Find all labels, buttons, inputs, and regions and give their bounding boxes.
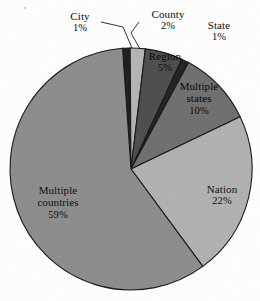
slice-label-city-percent: 1% (58, 22, 102, 34)
slice-label-multiple-countries: Multiple countries 59% (20, 184, 96, 220)
slice-label-county-percent: 2% (141, 20, 195, 32)
slice-label-multiple-countries-name: Multiple countries (20, 184, 96, 209)
pie-chart: City 1% County 2% State 1% Region 5% Mul… (0, 0, 260, 301)
slice-label-city-name: City (58, 10, 102, 22)
pie-chart-canvas (0, 0, 260, 301)
slice-label-region-name: Region (143, 50, 187, 62)
slice-label-county: County 2% (141, 8, 195, 32)
slice-label-state: State 1% (196, 19, 242, 43)
slice-label-region: Region 5% (143, 50, 187, 74)
slice-label-multiple-countries-percent: 59% (20, 209, 96, 221)
slice-label-state-name: State (196, 19, 242, 31)
slice-label-multiple-states-name: Multiple states (168, 80, 230, 105)
slice-label-multiple-states: Multiple states 10% (168, 80, 230, 116)
leader-line-group (101, 22, 140, 49)
slice-label-region-percent: 5% (143, 62, 187, 74)
slice-label-city: City 1% (58, 10, 102, 34)
slice-label-county-name: County (141, 8, 195, 20)
leader-line-city (101, 22, 132, 48)
slice-label-nation: Nation 22% (198, 183, 246, 207)
slice-label-multiple-states-percent: 10% (168, 105, 230, 117)
slice-label-nation-percent: 22% (198, 195, 246, 207)
slice-label-state-percent: 1% (196, 31, 242, 43)
scan-speck (24, 7, 26, 9)
slice-label-nation-name: Nation (198, 183, 246, 195)
leader-line-county (131, 22, 140, 49)
